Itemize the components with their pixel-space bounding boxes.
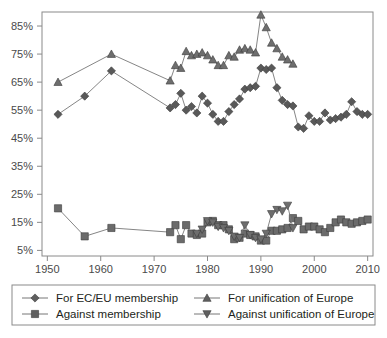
x-axis: 1950196019701980199020002010 [35, 256, 380, 275]
legend-label: For EC/EU membership [56, 292, 178, 304]
y-tick-label: 35% [11, 160, 33, 172]
x-tick-label: 1980 [195, 263, 219, 275]
y-tick-label: 15% [11, 216, 33, 228]
data-point-square [81, 233, 88, 240]
y-tick-label: 75% [11, 48, 33, 60]
y-tick-label: 5% [17, 244, 33, 256]
data-point-square [183, 222, 190, 229]
data-point-square [172, 222, 179, 229]
eurobarometer-line-chart: 5%15%25%35%45%55%65%75%85% 1950196019701… [0, 0, 387, 338]
y-tick-label: 85% [11, 20, 33, 32]
x-tick-label: 2010 [355, 263, 379, 275]
x-tick-label: 1950 [35, 263, 59, 275]
legend-label: Against membership [56, 308, 161, 320]
data-point-square [177, 236, 184, 243]
data-point-square [364, 216, 371, 223]
y-tick-label: 25% [11, 188, 33, 200]
chart-legend: For EC/EU membershipAgainst membershipFo… [12, 285, 375, 325]
data-point-square [54, 205, 61, 212]
x-tick-label: 1970 [142, 263, 166, 275]
data-point-square [108, 224, 115, 231]
data-point-square [167, 229, 174, 236]
y-axis: 5%15%25%35%45%55%65%75%85% [11, 20, 42, 256]
y-tick-label: 45% [11, 132, 33, 144]
x-tick-label: 2000 [302, 263, 326, 275]
legend-label: For unification of Europe [228, 292, 353, 304]
y-tick-label: 55% [11, 104, 33, 116]
legend-label: Against unification of Europe [228, 308, 374, 320]
x-tick-label: 1960 [88, 263, 112, 275]
x-tick-label: 1990 [249, 263, 273, 275]
chart-container: 5%15%25%35%45%55%65%75%85% 1950196019701… [0, 0, 387, 338]
y-tick-label: 65% [11, 76, 33, 88]
data-point-square [295, 217, 302, 224]
legend-marker-square-icon [31, 310, 38, 317]
